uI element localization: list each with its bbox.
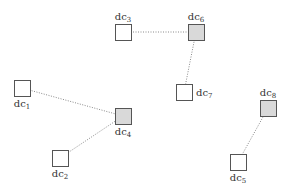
node-label-dc2: dc2 xyxy=(52,168,68,181)
node-box-dc3 xyxy=(116,25,132,41)
node-dc6: dc6 xyxy=(188,11,205,41)
node-dc7: dc7 xyxy=(177,85,213,101)
node-label-subscript: 1 xyxy=(26,103,30,111)
node-box-dc7 xyxy=(177,85,193,101)
node-label-subscript: 3 xyxy=(127,16,131,24)
node-dc4: dc4 xyxy=(115,109,132,140)
cluster-diagram: dc1dc2dc3dc4dc5dc6dc7dc8 xyxy=(0,0,285,194)
node-label-base: dc xyxy=(230,172,242,183)
node-label-subscript: 5 xyxy=(242,177,246,185)
node-dc2: dc2 xyxy=(52,151,69,182)
node-label-dc4: dc4 xyxy=(115,126,132,139)
node-label-subscript: 4 xyxy=(127,131,132,139)
node-label-base: dc xyxy=(115,11,127,22)
node-dc3: dc3 xyxy=(115,11,132,41)
node-label-dc5: dc5 xyxy=(230,172,246,185)
node-box-dc2 xyxy=(53,151,69,167)
node-label-base: dc xyxy=(196,87,208,98)
node-box-dc5 xyxy=(231,155,247,171)
node-label-subscript: 6 xyxy=(200,16,205,24)
node-label-base: dc xyxy=(14,98,26,109)
node-label-subscript: 8 xyxy=(272,92,276,100)
node-dc1: dc1 xyxy=(14,81,31,112)
node-label-subscript: 2 xyxy=(64,173,68,181)
edge-dc2-dc4 xyxy=(60,116,123,158)
node-label-dc1: dc1 xyxy=(14,98,30,111)
edges-layer xyxy=(22,32,268,162)
node-label-dc6: dc6 xyxy=(188,11,205,24)
node-label-base: dc xyxy=(52,168,64,179)
nodes-layer: dc1dc2dc3dc4dc5dc6dc7dc8 xyxy=(14,11,277,185)
node-dc8: dc8 xyxy=(260,87,277,117)
node-dc5: dc5 xyxy=(230,155,247,186)
node-label-subscript: 7 xyxy=(208,92,212,100)
node-label-base: dc xyxy=(115,126,127,137)
node-box-dc8 xyxy=(261,101,277,117)
node-label-base: dc xyxy=(260,87,272,98)
node-label-dc7: dc7 xyxy=(196,87,212,100)
node-label-dc8: dc8 xyxy=(260,87,276,100)
node-box-dc6 xyxy=(189,25,205,41)
node-label-base: dc xyxy=(188,11,200,22)
node-label-dc3: dc3 xyxy=(115,11,131,24)
node-box-dc1 xyxy=(15,81,31,97)
edge-dc1-dc4 xyxy=(22,88,123,116)
node-box-dc4 xyxy=(116,109,132,125)
